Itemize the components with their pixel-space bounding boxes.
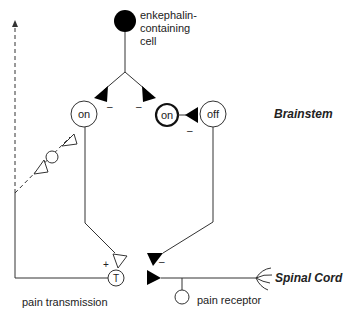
- inhibitory-synapse-left: [94, 86, 108, 102]
- sign-inhibit-spinal: –: [159, 256, 165, 267]
- brainstem-label: Brainstem: [274, 107, 333, 121]
- sign-excite-T: +: [103, 259, 109, 270]
- excitatory-synapse-receptor: [147, 270, 161, 285]
- inhibitory-synapse-off: [185, 107, 198, 123]
- sign-inhibit-left: –: [107, 101, 113, 112]
- relay-neuron: [46, 151, 58, 163]
- pain-receptor-label: pain receptor: [197, 294, 262, 306]
- enkephalin-cell: [114, 10, 136, 32]
- off-cell-label: off: [207, 108, 220, 120]
- off-cell-axon: [163, 127, 213, 253]
- sign-inhibit-right: –: [136, 101, 142, 112]
- relay-synapse-upper: [62, 134, 77, 146]
- pain-modulation-diagram: enkephalin- containing cell – – on on – …: [0, 0, 345, 319]
- free-nerve-ending-icon: [256, 268, 272, 290]
- transmission-cell-label: T: [113, 273, 119, 284]
- pain-transmission-label: pain transmission: [22, 296, 108, 308]
- on-cell-bold-label: on: [161, 109, 173, 121]
- inhibitory-synapse-right: [142, 86, 156, 102]
- pain-receptor-cell: [175, 290, 189, 304]
- enkephalin-label-line3: cell: [140, 35, 157, 47]
- transmission-output-line: [15, 193, 108, 278]
- on-cell-left-label: on: [78, 108, 90, 120]
- spinal-cord-label: Spinal Cord: [275, 271, 343, 285]
- enkephalin-label-line2: containing: [140, 22, 190, 34]
- excitatory-synapse-T: [113, 254, 127, 268]
- ascending-arrow-icon: [12, 20, 18, 27]
- enkephalin-label-line1: enkephalin-: [140, 9, 197, 21]
- sign-inhibit-off: –: [187, 125, 193, 136]
- on-cell-axon: [85, 127, 115, 253]
